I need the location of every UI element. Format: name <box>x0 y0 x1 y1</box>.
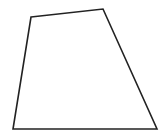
quadrilateral-shape <box>13 9 157 129</box>
diagram-canvas <box>0 0 168 138</box>
